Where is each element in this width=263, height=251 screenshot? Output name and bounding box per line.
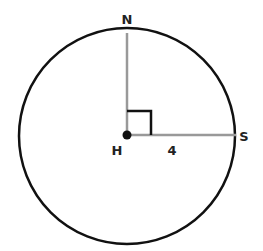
label-length: 4 bbox=[167, 143, 176, 158]
center-point bbox=[123, 131, 132, 140]
right-angle-marker bbox=[127, 111, 151, 135]
label-n: N bbox=[122, 12, 133, 27]
label-s: S bbox=[239, 129, 248, 144]
circle-diagram: N H S 4 bbox=[0, 0, 263, 251]
label-h: H bbox=[112, 143, 123, 158]
